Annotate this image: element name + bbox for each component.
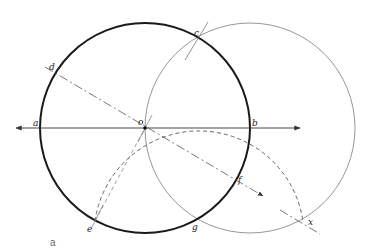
dashed-line-e-o <box>95 128 145 221</box>
label-x: x <box>308 217 313 227</box>
center-point-o <box>143 126 147 130</box>
label-g: g <box>192 222 198 232</box>
tick-x <box>280 210 320 234</box>
label-d: d <box>49 62 55 72</box>
label-e: e <box>87 224 92 234</box>
figure-caption: a <box>50 237 56 248</box>
geometric-construction-diagram: a b c d e f g o x a <box>0 0 378 250</box>
dashed-arc <box>95 131 303 222</box>
label-o: o <box>138 117 144 127</box>
label-b: b <box>252 118 258 128</box>
label-c: c <box>194 28 199 38</box>
label-a: a <box>33 118 38 128</box>
